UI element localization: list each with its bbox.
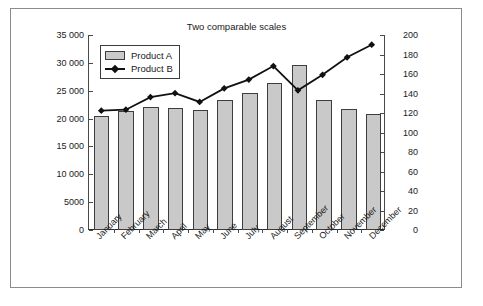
- right-axis-tick-label: 60: [392, 167, 418, 177]
- right-axis-tick-label: 120: [392, 108, 418, 118]
- left-axis-tick-label: 20 000: [56, 114, 84, 124]
- right-axis-tick-label: 180: [392, 50, 418, 60]
- right-axis-tick-label: 100: [392, 128, 418, 138]
- line-marker: [172, 90, 179, 97]
- left-axis-tick-label: 0: [79, 225, 84, 235]
- left-axis-tick-label: 30 000: [56, 58, 84, 68]
- legend-swatch-icon: [105, 51, 125, 60]
- left-axis-tick-label: 15 000: [56, 141, 84, 151]
- chart-figure: Two comparable scales 0500010 00015 0002…: [0, 0, 483, 306]
- right-axis-tick-label: 140: [392, 89, 418, 99]
- legend-item-product-a: Product A: [105, 49, 173, 62]
- left-axis-tick-label: 25 000: [56, 86, 84, 96]
- legend-line-marker-icon: [105, 64, 125, 73]
- right-axis-tick-label: 200: [392, 30, 418, 40]
- left-axis-tick-labels: 0500010 00015 00020 00025 00030 00035 00…: [34, 35, 84, 230]
- legend-label-product-b: Product B: [131, 63, 173, 74]
- line-marker: [245, 76, 252, 83]
- right-axis-tick-label: 160: [392, 69, 418, 79]
- left-axis-tick-label: 10 000: [56, 169, 84, 179]
- chart-title: Two comparable scales: [88, 21, 385, 32]
- right-axis-tick-labels: 020406080100120140160180200: [392, 35, 432, 230]
- legend-label-product-a: Product A: [131, 50, 172, 61]
- line-marker: [98, 107, 105, 114]
- left-axis-tick-label: 5000: [64, 197, 84, 207]
- line-marker: [368, 41, 375, 48]
- category-axis-labels: JanuaryFebruaryMarchAprilMayJuneJulyAugu…: [88, 230, 385, 290]
- right-axis-tick-label: 40: [392, 186, 418, 196]
- line-marker: [221, 85, 228, 92]
- legend-item-product-b: Product B: [105, 62, 173, 75]
- line-marker: [147, 94, 154, 101]
- line-marker: [196, 99, 203, 106]
- chart-legend: Product A Product B: [100, 45, 180, 79]
- left-axis-tick-label: 35 000: [56, 30, 84, 40]
- right-axis-tick-label: 0: [392, 225, 418, 235]
- line-marker: [122, 106, 129, 113]
- right-axis-tick-label: 80: [392, 147, 418, 157]
